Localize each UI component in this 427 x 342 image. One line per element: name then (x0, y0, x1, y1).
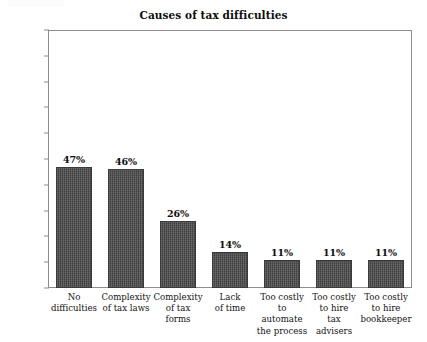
x-axis-category-label: Too costlyto hiretax advisers (308, 292, 360, 337)
x-axis-category-label-line: Too costly (360, 292, 412, 303)
bar (160, 221, 196, 288)
x-axis-category-label: Nodifficulties (48, 292, 100, 314)
bar (108, 169, 144, 288)
x-axis-category-label-line: to hire (308, 303, 360, 314)
x-axis-category-label: Lackof time (204, 292, 256, 314)
bar-series: 47%46%26%14%11%11%11% (48, 30, 412, 288)
x-axis-category-label-line: Complexity (152, 292, 204, 303)
x-axis-category-label-line: bookkeeper (360, 314, 412, 325)
bar-value-label: 14% (200, 239, 260, 250)
bar (368, 260, 404, 288)
y-axis: 0%10%20%30%40%50%60%70%80%90%100% (0, 0, 48, 342)
x-axis-category-label-line: tax advisers (308, 314, 360, 336)
x-axis-category-label-line: to hire (360, 303, 412, 314)
x-axis-category-label-line: Complexity (100, 292, 152, 303)
x-axis-category-label: Complexityof tax forms (152, 292, 204, 326)
x-axis-category-label-line: to automate (256, 303, 308, 325)
bar-value-label: 11% (304, 247, 364, 258)
bar-value-label: 47% (44, 154, 104, 165)
chart-title: Causes of tax difficulties (0, 9, 427, 21)
x-axis-category-label-line: the process (256, 326, 308, 337)
x-axis-category-label-line: of time (204, 303, 256, 314)
bar (212, 252, 248, 288)
bar (264, 260, 300, 288)
x-axis-category-label-line: of tax laws (100, 303, 152, 314)
bar-value-label: 46% (96, 156, 156, 167)
bar-value-label: 26% (148, 208, 208, 219)
x-axis-category-label-line: of tax forms (152, 303, 204, 325)
bar-value-label: 11% (252, 247, 312, 258)
bar (316, 260, 352, 288)
x-axis-category-label-line: No (48, 292, 100, 303)
x-axis-category-label-line: Lack (204, 292, 256, 303)
x-axis-category-label-line: difficulties (48, 303, 100, 314)
x-axis-category-label: Too costlyto hirebookkeeper (360, 292, 412, 326)
x-axis-category-label-line: Too costly (308, 292, 360, 303)
x-axis-category-label: Complexityof tax laws (100, 292, 152, 314)
x-axis: NodifficultiesComplexityof tax lawsCompl… (48, 292, 412, 342)
x-axis-category-label: Too costlyto automatethe process (256, 292, 308, 337)
bar-value-label: 11% (356, 247, 416, 258)
bar (56, 167, 92, 288)
x-axis-category-label-line: Too costly (256, 292, 308, 303)
